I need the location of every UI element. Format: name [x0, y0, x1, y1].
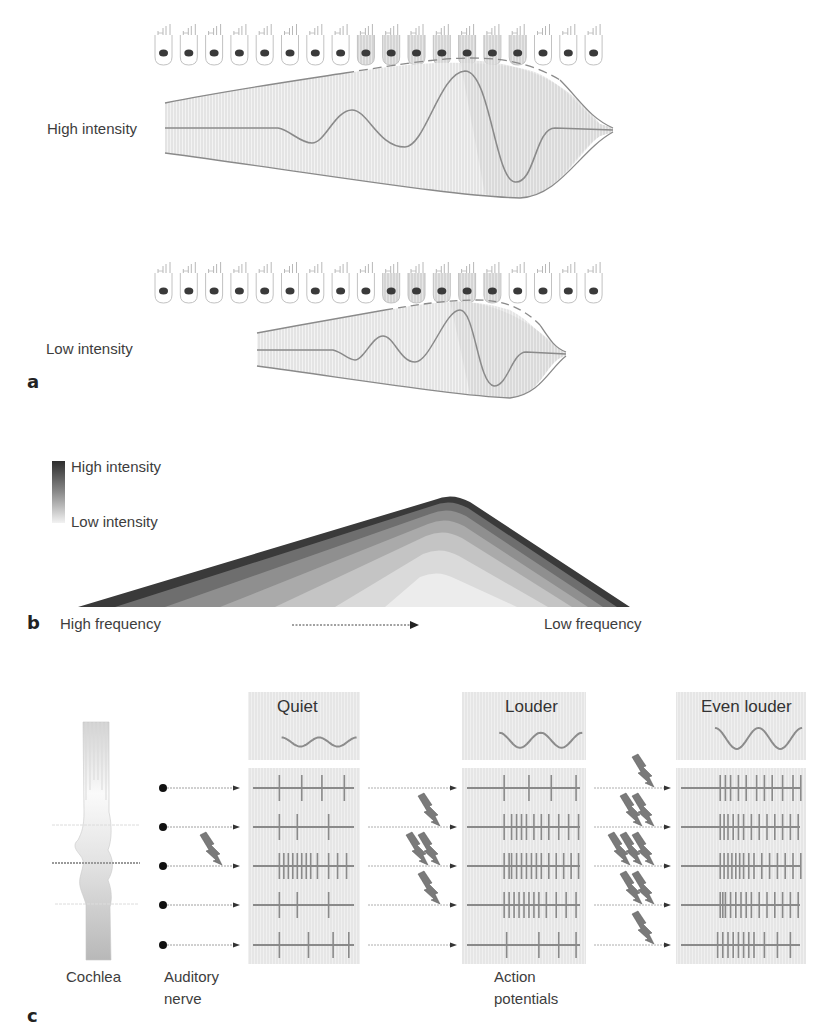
- auditory-nerve-fibers: [159, 784, 240, 949]
- axis-label-low-frequency: Low frequency: [544, 615, 642, 632]
- basilar-membrane-low: [155, 262, 602, 398]
- hair-cell: [282, 24, 299, 65]
- hair-cell: [357, 24, 374, 65]
- hair-cell: [180, 262, 197, 303]
- condition-title-louder: Louder: [505, 697, 558, 717]
- hair-cell: [408, 24, 425, 65]
- panel-letter-b: b: [27, 612, 40, 633]
- arrow-icon: [410, 621, 419, 629]
- axis-label-high-frequency: High frequency: [60, 615, 161, 632]
- label-auditory: Auditory: [164, 968, 219, 985]
- hair-cell-row-low: [155, 262, 602, 303]
- intensity-legend-bar: [52, 461, 65, 523]
- label-low-intensity-a: Low intensity: [46, 340, 133, 357]
- condition-panel-even-louder: [594, 692, 806, 964]
- lightning-bolt-icon: [632, 754, 654, 787]
- hair-cell-row-high: [155, 24, 602, 65]
- hair-cell: [231, 24, 248, 65]
- hair-cell: [535, 262, 552, 303]
- condition-panel-louder: [368, 692, 586, 964]
- hair-cell: [307, 24, 324, 65]
- hair-cell: [357, 262, 374, 303]
- hair-cell: [509, 24, 526, 65]
- basilar-membrane-high: [165, 58, 613, 198]
- condition-title-quiet: Quiet: [277, 697, 318, 717]
- nerve-fiber: [159, 901, 240, 909]
- label-high-intensity-a: High intensity: [47, 120, 137, 137]
- hair-cell: [459, 24, 476, 65]
- hair-cell: [560, 24, 577, 65]
- lightning-bolt-icon: [200, 832, 222, 865]
- hair-cell: [459, 262, 476, 303]
- intensity-layers: [78, 496, 630, 607]
- hair-cell: [332, 24, 349, 65]
- hair-cell: [155, 262, 172, 303]
- hair-cell: [408, 262, 425, 303]
- label-nerve: nerve: [164, 990, 202, 1007]
- nerve-fiber: [159, 784, 240, 792]
- hair-cell: [585, 262, 602, 303]
- condition-title-even-louder: Even louder: [701, 697, 792, 717]
- hair-cell: [206, 24, 223, 65]
- nerve-fiber: [159, 823, 240, 831]
- hair-cell: [332, 262, 349, 303]
- hair-cell: [256, 24, 273, 65]
- condition-panel-quiet: [200, 692, 360, 964]
- label-action: Action: [494, 968, 536, 985]
- hair-cell: [206, 262, 223, 303]
- legend-low-intensity: Low intensity: [71, 513, 158, 530]
- cochlea-drawing: [52, 722, 140, 960]
- hair-cell: [307, 262, 324, 303]
- hair-cell: [256, 262, 273, 303]
- hair-cell: [484, 262, 501, 303]
- label-potentials: potentials: [494, 990, 558, 1007]
- hair-cell: [383, 262, 400, 303]
- panel-letter-c: c: [27, 1005, 38, 1026]
- panel-a: [155, 24, 613, 398]
- hair-cell: [433, 262, 450, 303]
- lightning-bolt-icon: [418, 793, 440, 826]
- lightning-bolt-icon: [418, 871, 440, 904]
- hair-cell: [383, 24, 400, 65]
- hair-cell: [180, 24, 197, 65]
- nerve-fiber: [159, 862, 240, 870]
- hair-cell: [560, 262, 577, 303]
- nerve-fiber: [159, 941, 240, 949]
- label-cochlea: Cochlea: [66, 968, 121, 985]
- panel-letter-a: a: [27, 371, 39, 392]
- hair-cell: [231, 262, 248, 303]
- panel-b-tuning-curve: [52, 461, 630, 629]
- hair-cell: [535, 24, 552, 65]
- lightning-bolt-icon: [632, 911, 654, 944]
- hair-cell: [155, 24, 172, 65]
- legend-high-intensity: High intensity: [71, 458, 161, 475]
- hair-cell: [282, 262, 299, 303]
- panel-c: [52, 692, 806, 964]
- hair-cell: [509, 262, 526, 303]
- condition-panels: [200, 692, 806, 964]
- hair-cell: [585, 24, 602, 65]
